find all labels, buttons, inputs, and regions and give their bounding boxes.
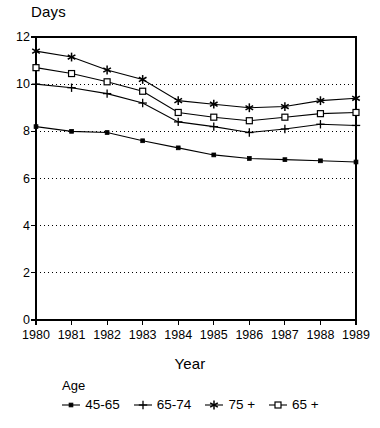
- marker-open-square: [246, 118, 252, 124]
- data-point-marker: [247, 157, 251, 161]
- series-line: [36, 127, 356, 162]
- marker-open-square: [317, 111, 323, 117]
- legend-item-65-74[interactable]: 65-74: [133, 398, 192, 412]
- y-tick-label: 2: [6, 266, 30, 280]
- data-point-marker: [33, 65, 39, 71]
- data-point-marker: [104, 79, 110, 85]
- x-tick-label: 1985: [200, 328, 228, 342]
- series-line: [36, 84, 356, 132]
- data-point-marker: [316, 120, 324, 128]
- x-tick-label: 1981: [58, 328, 86, 342]
- marker-filled-square: [141, 139, 145, 143]
- x-tick-label: 1989: [342, 328, 370, 342]
- x-tick-label: 1983: [129, 328, 157, 342]
- data-point-marker: [212, 153, 216, 157]
- data-point-marker: [283, 158, 287, 162]
- marker-filled-square: [247, 157, 251, 161]
- y-tick-label: 12: [6, 30, 30, 44]
- y-tick-label: 0: [6, 313, 30, 327]
- legend-item-65-[interactable]: 65 +: [268, 398, 319, 412]
- data-point-marker: [317, 111, 323, 117]
- data-point-marker: [105, 131, 109, 135]
- series-65-74: [32, 80, 360, 137]
- x-axis-ticks: [36, 320, 356, 325]
- marker-open-square: [140, 88, 146, 94]
- marker-open-square: [353, 109, 359, 115]
- legend-marker-open-square-icon: [268, 398, 288, 412]
- data-point-marker: [139, 401, 147, 409]
- marker-filled-square: [105, 131, 109, 135]
- marker-open-square: [33, 65, 39, 71]
- data-point-marker: [352, 121, 360, 129]
- series-75-: [32, 47, 360, 112]
- x-tick-label: 1988: [307, 328, 335, 342]
- data-point-marker: [282, 114, 288, 120]
- series-line: [36, 51, 356, 108]
- data-point-marker: [140, 88, 146, 94]
- legend-title: Age: [62, 378, 85, 393]
- data-point-marker: [69, 71, 75, 77]
- series-line: [36, 68, 356, 121]
- marker-open-square: [69, 71, 75, 77]
- data-point-marker: [67, 84, 75, 92]
- data-point-marker: [69, 403, 73, 407]
- legend-label: 65-74: [157, 398, 192, 412]
- y-axis-ticks: [31, 37, 36, 320]
- marker-filled-square: [283, 158, 287, 162]
- marker-filled-square: [69, 403, 73, 407]
- legend-label: 75 +: [228, 398, 255, 412]
- data-point-marker: [353, 109, 359, 115]
- marker-filled-square: [34, 125, 38, 129]
- data-point-marker: [245, 128, 253, 136]
- legend-item-75-[interactable]: 75 +: [204, 398, 255, 412]
- data-point-marker: [176, 146, 180, 150]
- marker-open-square: [175, 109, 181, 115]
- x-tick-label: 1982: [93, 328, 121, 342]
- marker-filled-square: [354, 160, 358, 164]
- marker-open-square: [282, 114, 288, 120]
- data-point-marker: [141, 139, 145, 143]
- marker-open-square: [211, 114, 217, 120]
- data-point-marker: [32, 80, 40, 88]
- legend-marker-filled-square-icon: [61, 398, 81, 412]
- series-45-65: [34, 125, 358, 164]
- data-point-marker: [275, 402, 281, 408]
- data-point-marker: [319, 159, 323, 163]
- data-point-marker: [210, 122, 218, 130]
- y-tick-label: 10: [6, 77, 30, 91]
- data-point-marker: [103, 66, 111, 75]
- marker-open-square: [104, 79, 110, 85]
- y-tick-label: 4: [6, 219, 30, 233]
- data-point-marker: [103, 89, 111, 97]
- x-tick-label: 1987: [271, 328, 299, 342]
- data-point-marker: [138, 99, 146, 107]
- marker-filled-square: [212, 153, 216, 157]
- legend-label: 65 +: [292, 398, 319, 412]
- data-point-marker: [354, 160, 358, 164]
- data-point-marker: [174, 118, 182, 126]
- x-axis-title: Year: [0, 355, 380, 372]
- marker-open-square: [275, 402, 281, 408]
- data-point-marker: [211, 114, 217, 120]
- legend-marker-plus-icon: [133, 398, 153, 412]
- data-point-marker: [175, 109, 181, 115]
- data-point-marker: [281, 125, 289, 133]
- grid-lines: [36, 84, 356, 273]
- legend-label: 45-65: [85, 398, 120, 412]
- legend-items: 45-6565-7475 +65 +: [0, 398, 380, 412]
- marker-filled-square: [176, 146, 180, 150]
- data-point-marker: [70, 129, 74, 133]
- x-tick-label: 1984: [164, 328, 192, 342]
- y-tick-label: 6: [6, 172, 30, 186]
- x-tick-label: 1986: [235, 328, 263, 342]
- marker-filled-square: [319, 159, 323, 163]
- data-point-marker: [246, 118, 252, 124]
- y-tick-label: 8: [6, 124, 30, 138]
- marker-filled-square: [70, 129, 74, 133]
- data-point-marker: [139, 75, 147, 84]
- legend-item-45-65[interactable]: 45-65: [61, 398, 120, 412]
- data-point-marker: [34, 125, 38, 129]
- series-65-: [33, 65, 359, 124]
- legend-marker-asterisk-icon: [204, 398, 224, 412]
- x-tick-label: 1980: [22, 328, 50, 342]
